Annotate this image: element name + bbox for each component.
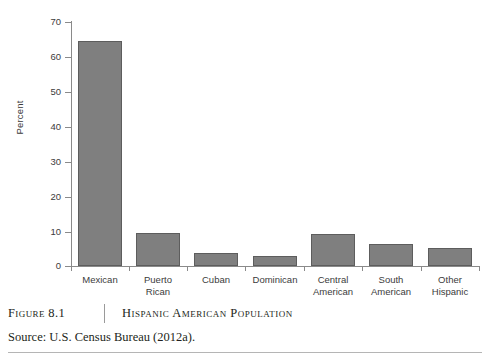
- y-tick-20: 20: [65, 197, 71, 198]
- y-tick-label: 0: [56, 260, 61, 271]
- figure-block: Percent 70 60 50 40 30 20 1: [0, 0, 490, 296]
- y-axis-title: Percent: [14, 83, 25, 153]
- y-tick-50: 50: [65, 92, 71, 93]
- x-tick: [71, 266, 72, 271]
- x-label-south-american: South American: [357, 274, 425, 297]
- x-tick: [304, 266, 305, 271]
- x-tick: [421, 266, 422, 271]
- bar-dominican: [253, 256, 297, 266]
- y-tick-40: 40: [65, 127, 71, 128]
- figure-number: Figure 8.1: [8, 306, 104, 321]
- bar-chart-plot: Percent 70 60 50 40 30 20 1: [0, 0, 490, 296]
- figure-caption: Figure 8.1 Hispanic American Population: [8, 302, 482, 324]
- x-tick: [187, 266, 188, 271]
- x-tick: [362, 266, 363, 271]
- x-label-cuban: Cuban: [182, 274, 250, 286]
- y-tick-70: 70: [65, 22, 71, 23]
- y-axis-line: [71, 21, 72, 267]
- x-tick: [245, 266, 246, 271]
- y-tick-label: 10: [50, 226, 61, 237]
- x-tick: [129, 266, 130, 271]
- x-axis-line: [71, 266, 480, 267]
- y-tick-60: 60: [65, 57, 71, 58]
- bar-south-american: [369, 244, 413, 266]
- y-tick-label: 40: [50, 121, 61, 132]
- x-label-other-hispanic: Other Hispanic: [416, 274, 484, 297]
- y-tick-10: 10: [65, 232, 71, 233]
- bottom-rule: [8, 352, 482, 353]
- bar-other-hispanic: [428, 248, 472, 266]
- bar-mexican: [78, 41, 122, 266]
- figure-title: Hispanic American Population: [122, 306, 293, 321]
- y-tick-label: 50: [50, 86, 61, 97]
- bar-central-american: [311, 234, 355, 266]
- bar-cuban: [194, 253, 238, 266]
- y-tick-label: 20: [50, 191, 61, 202]
- y-tick-label: 60: [50, 51, 61, 62]
- y-tick-label: 30: [50, 156, 61, 167]
- y-tick-30: 30: [65, 162, 71, 163]
- bar-puerto-rican: [136, 233, 180, 266]
- x-tick: [479, 266, 480, 271]
- caption-divider: [104, 304, 105, 323]
- y-tick-label: 70: [50, 16, 61, 27]
- source-note: Source: U.S. Census Bureau (2012a).: [8, 330, 195, 345]
